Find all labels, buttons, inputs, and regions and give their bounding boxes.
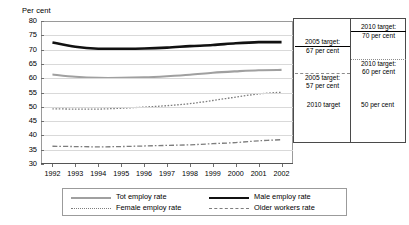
y-axis-tickmark xyxy=(41,121,44,122)
y-axis-tick: 50 xyxy=(18,103,37,111)
gridline xyxy=(41,93,293,94)
y-axis-tickmark xyxy=(41,35,44,36)
y-axis-tick: 35 xyxy=(18,146,37,154)
annotation-2005-target-67: 2005 target: 67 per cent xyxy=(295,38,350,55)
legend-swatch-tot-employ-rate xyxy=(71,193,111,201)
legend-label: Older workers rate xyxy=(254,203,315,212)
legend-item-older-workers-rate: Older workers rate xyxy=(209,203,315,212)
gridline xyxy=(41,121,293,122)
x-axis-tickmark xyxy=(236,164,237,167)
x-axis-tick: 2002 xyxy=(267,169,297,178)
legend-swatch-older-workers-rate xyxy=(209,204,249,212)
legend-swatch-male-employ-rate xyxy=(209,193,249,201)
y-axis-tick: 60 xyxy=(18,74,37,82)
x-axis-tickmark xyxy=(144,164,145,167)
legend-swatch-female-employ-rate xyxy=(71,204,111,212)
x-axis-tickmark xyxy=(167,164,168,167)
legend-item-female-employ-rate: Female employ rate xyxy=(71,203,181,212)
y-axis-title: Per cent xyxy=(22,6,51,15)
y-axis-tick: 45 xyxy=(18,117,37,125)
annotation-2010-target-50: 2010 target50 per cent xyxy=(295,101,406,109)
legend-label: Female employ rate xyxy=(116,203,181,212)
y-axis-tick: 30 xyxy=(18,160,37,168)
x-axis-tickmark xyxy=(52,164,53,167)
gridline xyxy=(41,64,293,65)
x-axis-tickmark xyxy=(213,164,214,167)
legend-item-male-employ-rate: Male employ rate xyxy=(209,192,311,201)
y-axis-tick: 65 xyxy=(18,60,37,68)
x-axis-tickmark xyxy=(121,164,122,167)
legend-item-tot-employ-rate: Tot employ rate xyxy=(71,192,167,201)
y-axis-tickmark xyxy=(41,107,44,108)
chart-legend: Tot employ rate Male employ rate Female … xyxy=(62,188,347,216)
x-axis-tickmark xyxy=(190,164,191,167)
gridline xyxy=(41,35,293,36)
series-line xyxy=(52,42,281,49)
gridline xyxy=(41,50,293,51)
x-axis-tickmark xyxy=(75,164,76,167)
gridline xyxy=(41,150,293,151)
x-axis-tickmark xyxy=(282,164,283,167)
gridline xyxy=(41,107,293,108)
y-axis-tickmark xyxy=(41,135,44,136)
y-axis-tick: 75 xyxy=(18,31,37,39)
y-axis-tick: 55 xyxy=(18,89,37,97)
gridline xyxy=(41,78,293,79)
targets-annotation-panel: 2005 target: 67 per cent 2010 target: 70… xyxy=(293,18,406,143)
y-axis-tick: 70 xyxy=(18,46,37,54)
y-axis-tickmark xyxy=(41,78,44,79)
y-axis-tickmark xyxy=(41,21,44,22)
y-axis-tickmark xyxy=(41,50,44,51)
y-axis-tickmark xyxy=(41,64,44,65)
y-axis-tick: 40 xyxy=(18,131,37,139)
series-line xyxy=(52,70,281,78)
y-axis-tickmark xyxy=(41,164,44,165)
gridline xyxy=(41,135,293,136)
chart-figure: Per cent 2005 target: 67 per cent 2010 t… xyxy=(0,0,409,225)
x-axis-tickmark xyxy=(98,164,99,167)
series-line xyxy=(52,140,281,147)
y-axis-tick: 80 xyxy=(18,17,37,25)
y-axis-tickmark xyxy=(41,150,44,151)
plot-area xyxy=(41,21,293,164)
annotation-2010-target-70: 2010 target: 70 per cent xyxy=(351,23,406,40)
legend-label: Tot employ rate xyxy=(116,192,167,201)
legend-label: Male employ rate xyxy=(254,192,311,201)
annotation-2010-target-60: 2010 target: 60 per cent xyxy=(351,59,406,76)
x-axis-tickmark xyxy=(259,164,260,167)
annotation-2005-target-57: 2005 target: 57 per cent xyxy=(295,73,350,90)
y-axis-tickmark xyxy=(41,93,44,94)
